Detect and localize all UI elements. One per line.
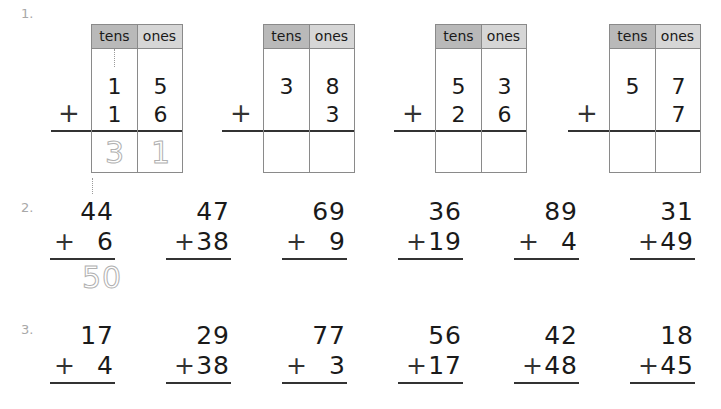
- bottom-addend: 38: [196, 228, 230, 256]
- answer-ones-traced: 1: [138, 135, 183, 171]
- top-addend: 18: [660, 322, 694, 350]
- top-addend: 29: [196, 322, 230, 350]
- top-addend: 36: [428, 198, 462, 226]
- place-value-chart: tens ones 1 5 1 6 3 1: [91, 24, 183, 173]
- bottom-ones-digit: 3: [310, 103, 355, 127]
- ones-header: ones: [481, 25, 526, 48]
- sum-line: [398, 382, 463, 384]
- plus-sign: +: [286, 352, 307, 380]
- plus-sign: +: [406, 228, 427, 256]
- top-addend: 69: [312, 198, 346, 226]
- place-value-chart: tens ones 3 8 3: [263, 24, 355, 173]
- top-ones-digit: 7: [656, 75, 701, 99]
- bottom-ones-digit: 6: [482, 103, 527, 127]
- answer-traced: 50: [82, 260, 122, 296]
- place-value-chart: tens ones 5 3 2 6: [435, 24, 527, 173]
- top-addend: 77: [312, 322, 346, 350]
- sum-line: [398, 258, 463, 260]
- ones-header: ones: [655, 25, 700, 48]
- bottom-addend: 3: [329, 352, 346, 380]
- plus-sign: +: [518, 228, 539, 256]
- top-ones-digit: 3: [482, 75, 527, 99]
- top-tens-digit: 3: [264, 75, 309, 99]
- bottom-addend: 4: [97, 352, 114, 380]
- bottom-addend: 17: [428, 352, 462, 380]
- bottom-addend: 9: [329, 228, 346, 256]
- sum-line: [166, 258, 231, 260]
- top-tens-digit: 5: [610, 75, 655, 99]
- answer-tens-traced: 3: [92, 135, 137, 171]
- sum-line: [282, 258, 347, 260]
- top-addend: 31: [660, 198, 694, 226]
- bottom-addend: 6: [97, 228, 114, 256]
- place-value-chart: tens ones 5 7 7: [609, 24, 701, 173]
- bottom-addend: 48: [544, 352, 578, 380]
- bottom-ones-digit: 6: [138, 103, 183, 127]
- plus-sign: +: [402, 100, 424, 126]
- top-addend: 89: [544, 198, 578, 226]
- top-addend: 44: [80, 198, 114, 226]
- top-tens-digit: 1: [92, 75, 137, 99]
- sum-line: [630, 258, 695, 260]
- bottom-addend: 4: [561, 228, 578, 256]
- bottom-addend: 38: [196, 352, 230, 380]
- plus-sign: +: [286, 228, 307, 256]
- plus-sign: +: [174, 352, 195, 380]
- sum-line: [514, 258, 579, 260]
- bottom-addend: 45: [660, 352, 694, 380]
- top-addend: 42: [544, 322, 578, 350]
- plus-sign: +: [638, 352, 659, 380]
- plus-sign: +: [58, 100, 80, 126]
- top-tens-digit: 5: [436, 75, 481, 99]
- plus-sign: +: [522, 352, 543, 380]
- plus-sign: +: [54, 352, 75, 380]
- top-addend: 17: [80, 322, 114, 350]
- sum-line: [282, 382, 347, 384]
- sum-line: [50, 382, 115, 384]
- bottom-addend: 49: [660, 228, 694, 256]
- bottom-ones-digit: 7: [656, 103, 701, 127]
- section-3-label: 3.: [21, 322, 33, 337]
- sum-line: [166, 382, 231, 384]
- top-ones-digit: 8: [310, 75, 355, 99]
- bottom-addend: 19: [428, 228, 462, 256]
- bottom-tens-digit: 1: [92, 103, 137, 127]
- tens-header: tens: [436, 25, 481, 48]
- top-addend: 47: [196, 198, 230, 226]
- plus-sign: +: [174, 228, 195, 256]
- top-ones-digit: 5: [138, 75, 183, 99]
- section-1-label: 1.: [21, 6, 33, 21]
- plus-sign: +: [54, 228, 75, 256]
- carry-mark: [92, 178, 93, 194]
- tens-header: tens: [92, 25, 137, 48]
- sum-line: [514, 382, 579, 384]
- sum-line: [630, 382, 695, 384]
- ones-header: ones: [309, 25, 354, 48]
- ones-header: ones: [137, 25, 182, 48]
- plus-sign: +: [406, 352, 427, 380]
- tens-header: tens: [264, 25, 309, 48]
- top-addend: 56: [428, 322, 462, 350]
- plus-sign: +: [576, 100, 598, 126]
- bottom-tens-digit: 2: [436, 103, 481, 127]
- plus-sign: +: [230, 100, 252, 126]
- section-2-label: 2.: [21, 200, 33, 215]
- carry-mark: [114, 49, 115, 67]
- plus-sign: +: [638, 228, 659, 256]
- tens-header: tens: [610, 25, 655, 48]
